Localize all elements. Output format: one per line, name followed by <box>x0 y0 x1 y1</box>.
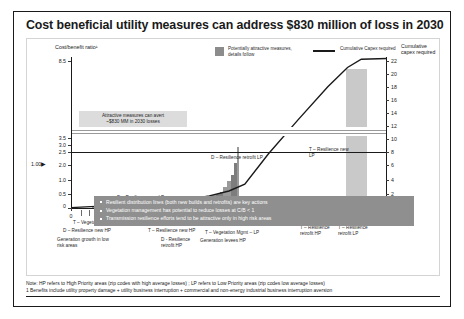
callout-t-resilience-retrofit-lp: T – Resilience retrofit LP <box>338 225 382 236</box>
chart-card: Potentially attractive measures, details… <box>26 38 440 276</box>
y2-tick-label: 14 <box>391 110 405 116</box>
y-tick-label: 0 <box>48 203 66 209</box>
y2-tick-label: 8 <box>391 149 405 155</box>
y2-tick-label: 12 <box>391 123 405 129</box>
callout-d-resilience-new-hp: D – Resilience new HP <box>63 228 133 234</box>
callout-generation-growth: Generation growth in low risk areas <box>57 237 113 248</box>
key-takeaways-box: Resilient distribution lines (both new b… <box>94 196 414 226</box>
right-axis-line <box>386 57 387 209</box>
y-tick-label: 2.5 <box>48 149 66 155</box>
footnote-benefits: 1 Benefits include utility property dama… <box>26 287 442 294</box>
right-axis-title: Cumulative capex required <box>401 43 439 55</box>
y-tick-label: 8.5 <box>48 58 66 64</box>
y-tick-label: 3.0 <box>48 142 66 148</box>
y-tick-label: 0.5 <box>48 191 66 197</box>
legend-bar-swatch <box>215 47 224 56</box>
y2-tick-label: 4 <box>391 177 405 183</box>
footnote-note: Note: HP refers to High Priority areas (… <box>26 280 442 287</box>
y-tick-label: 1.0 <box>48 177 66 183</box>
callout-generation-levees-hp: Generation levees HP <box>200 238 266 244</box>
bullet-item: Resilient distribution lines (both new b… <box>98 198 410 206</box>
y2-tick-label: 10 <box>391 136 405 142</box>
leader-line <box>81 210 82 216</box>
page-title: Cost beneficial utility measures can add… <box>26 18 440 32</box>
y2-tick-label: 20 <box>391 71 405 77</box>
threshold-arrow-icon: ▶ <box>41 161 46 167</box>
leader-line <box>89 210 90 216</box>
legend-line-swatch <box>313 50 335 52</box>
bullet-item: Transmission resilience efforts tend to … <box>98 214 410 222</box>
y-tick-label: 3.5 <box>48 135 66 141</box>
left-axis-line <box>71 57 72 209</box>
left-axis-title: Cost/benefit ratio¹ <box>55 44 98 50</box>
callout-t-vegetation-mgmt-lp: T – Vegetation Mgmt – LP <box>205 230 279 236</box>
y-tick-label: 2.0 <box>48 162 66 168</box>
annotation-line-2: ~$830 MM in 2030 losses <box>82 119 184 125</box>
inchart-label-d-resilience-retrofit-lp: D – Resilience retrofit LP <box>211 155 263 161</box>
threshold-marker: 1.00▶ <box>31 160 46 167</box>
footnote-rule <box>26 296 440 297</box>
axis-break-band <box>71 127 387 136</box>
callout-d-resilience-retrofit-hp: D - Resilience retrofit HP <box>161 237 203 248</box>
y2-tick-label: 16 <box>391 97 405 103</box>
threshold-value: 1.00 <box>31 161 41 167</box>
y2-tick-label: 18 <box>391 84 405 90</box>
callout-t-resilience-retrofit-hp: T – Resilience retrofit HP <box>300 225 330 236</box>
legend-line-label: Cumulative Capex required <box>340 46 402 52</box>
bullet-item: Vegetation management has potential to r… <box>98 206 410 214</box>
inchart-label-t-resilience-new-lp: T – Resilience new LP <box>309 147 355 158</box>
y2-tick-label: 22 <box>391 58 405 64</box>
plot-area: Attractive measures can avert ~$830 MM i… <box>71 57 387 209</box>
footnote-block: Note: HP refers to High Priority areas (… <box>26 280 442 294</box>
y2-tick-label: 6 <box>391 162 405 168</box>
legend-bar-label: Potentially attractive measures, details… <box>228 46 306 57</box>
annotation-callout: Attractive measures can avert ~$830 MM i… <box>79 111 187 127</box>
slide-frame: Cost beneficial utility measures can add… <box>13 11 451 307</box>
